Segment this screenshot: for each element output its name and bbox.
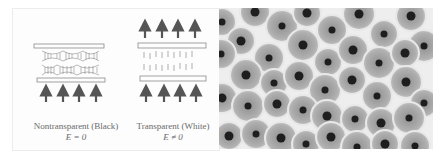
- bottom-plate: [140, 76, 206, 81]
- micrograph-image: [219, 8, 433, 149]
- droplet-micrograph: [219, 8, 433, 149]
- transparent-equation: E ≠ 0: [123, 132, 223, 142]
- transparent-cell: [138, 25, 206, 102]
- bottom-plate: [37, 78, 105, 82]
- incoming-light-arrows: [146, 90, 196, 102]
- outgoing-light-arrows: [145, 25, 195, 38]
- aligned-molecules: [144, 51, 192, 71]
- transparent-label: Transparent (White): [123, 121, 223, 131]
- top-plate: [34, 44, 104, 48]
- top-plate: [138, 43, 206, 48]
- incoming-light-arrows: [46, 90, 96, 102]
- nontransparent-cell: [34, 44, 105, 102]
- nontransparent-equation: E = 0: [21, 132, 131, 142]
- twisted-helix-icon: [42, 65, 99, 75]
- lc-cell-diagram: Nontransparent (Black) E = 0 Transparent…: [12, 8, 220, 151]
- nontransparent-label: Nontransparent (Black): [21, 121, 131, 131]
- twisted-helix-icon: [42, 51, 99, 61]
